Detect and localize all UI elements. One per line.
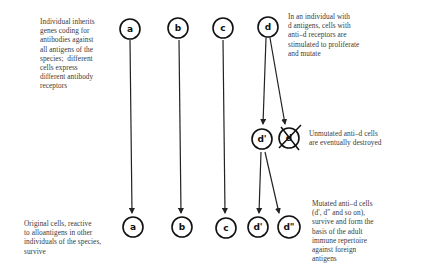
edge-c (223, 40, 225, 213)
node-bottom-a: a (123, 217, 143, 237)
svg-text:b: b (175, 23, 182, 33)
node-bottom-c: c (216, 218, 236, 238)
svg-text:b: b (179, 222, 186, 232)
svg-text:c: c (223, 223, 228, 233)
node-bottom-b: b (172, 217, 192, 237)
node-bottom-d-double-prime: d" (278, 216, 300, 238)
node-bottom-d-prime: d' (248, 217, 268, 237)
node-top-d: d (258, 17, 278, 37)
diagram-canvas: a b c d d' d a b c d' d" (0, 0, 426, 277)
edge-a (130, 40, 132, 213)
edge-d-to-destroyed (270, 38, 285, 124)
node-mid-d-destroyed: d (279, 125, 301, 150)
svg-text:c: c (220, 23, 225, 33)
edge-dprime-to-dprime (259, 152, 261, 213)
node-mid-d-prime: d' (252, 129, 272, 149)
svg-text:a: a (127, 24, 133, 34)
svg-text:d: d (265, 22, 271, 32)
svg-text:d": d" (283, 222, 294, 232)
svg-text:d': d' (257, 134, 266, 144)
edge-d-to-dprime (263, 38, 266, 124)
node-top-b: b (168, 18, 188, 38)
node-top-a: a (120, 19, 140, 39)
edge-b (179, 40, 181, 213)
node-top-c: c (213, 18, 233, 38)
svg-text:d': d' (253, 222, 262, 232)
svg-text:a: a (130, 222, 136, 232)
edge-dprime-to-ddoubleprime (265, 152, 279, 213)
